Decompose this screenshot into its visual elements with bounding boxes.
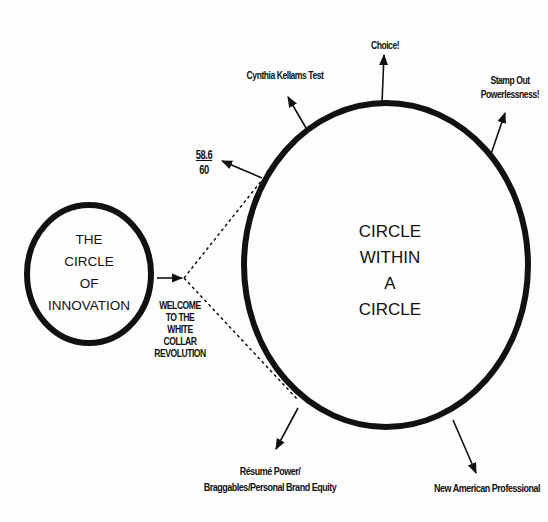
small-circle-line-2: CIRCLE xyxy=(29,251,149,273)
resume-power-label: Résumé Power/ Braggables/Personal Brand … xyxy=(192,463,348,495)
welcome-line-4: COLLAR xyxy=(149,335,211,347)
arrow-choice xyxy=(382,55,384,103)
welcome-line-5: REVOLUTION xyxy=(149,347,211,359)
diagram-canvas: THE CIRCLE OF INNOVATION WELCOME TO THE … xyxy=(0,0,548,522)
arrow-stamp-out xyxy=(491,113,505,154)
big-circle-line-3: A xyxy=(335,271,445,297)
choice-label: Choice! xyxy=(362,40,409,51)
big-circle-text: CIRCLE WITHIN A CIRCLE xyxy=(335,219,445,323)
score-denominator: 60 xyxy=(188,164,219,176)
stamp-out-line-2: Powerlessness! xyxy=(471,87,548,101)
score-numerator: 58.6 xyxy=(188,149,219,161)
welcome-label: WELCOME TO THE WHITE COLLAR REVOLUTION xyxy=(149,299,211,359)
arrow-score xyxy=(222,161,262,178)
arrow-cynthia xyxy=(288,97,306,128)
new-american-text: New American Professional xyxy=(434,482,540,494)
choice-text: Choice! xyxy=(371,39,399,51)
small-circle-line-1: THE xyxy=(29,229,149,251)
welcome-line-2: TO THE xyxy=(149,311,211,323)
stamp-out-label: Stamp Out Powerlessness! xyxy=(471,73,548,101)
welcome-line-3: WHITE xyxy=(149,323,211,335)
resume-line-2: Braggables/Personal Brand Equity xyxy=(192,479,348,495)
score-callout: 58.6 60 xyxy=(188,149,219,176)
resume-line-1: Résumé Power/ xyxy=(192,463,348,479)
small-circle-line-3: OF xyxy=(29,273,149,295)
welcome-line-1: WELCOME xyxy=(149,299,211,311)
arrow-resume xyxy=(276,408,298,449)
big-circle-line-4: CIRCLE xyxy=(335,297,445,323)
arrow-new-american xyxy=(453,420,476,473)
stamp-out-line-1: Stamp Out xyxy=(471,73,548,87)
cynthia-kellams-text: Cynthia Kellams Test xyxy=(247,69,324,81)
new-american-professional-label: New American Professional xyxy=(429,483,546,495)
big-circle-line-2: WITHIN xyxy=(335,245,445,271)
small-circle-text: THE CIRCLE OF INNOVATION xyxy=(29,229,149,317)
cynthia-kellams-label: Cynthia Kellams Test xyxy=(230,70,339,81)
small-circle-line-4: INNOVATION xyxy=(29,295,149,317)
big-circle-line-1: CIRCLE xyxy=(335,219,445,245)
